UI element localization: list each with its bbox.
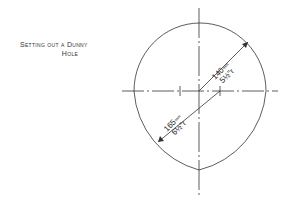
lower-radius-dim-line [158, 91, 220, 142]
lower-right-arc [199, 91, 266, 170]
lower-arrowhead [158, 136, 164, 142]
upper-arc [134, 23, 266, 91]
dunny-hole-drawing: 140 mm 5½"r 165 mm 6½"r [0, 0, 287, 207]
